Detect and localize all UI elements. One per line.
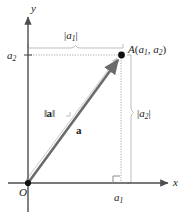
norm-guide-arrow	[26, 58, 117, 180]
abs-a2-bar-right: |	[148, 107, 150, 119]
norm-label-pointer	[66, 112, 70, 116]
norm-bars-right: ‖	[52, 107, 55, 119]
vector-a-arrow	[28, 60, 118, 183]
vector-diagram-svg	[0, 0, 189, 218]
abs-a1-label: |a1|	[64, 30, 78, 43]
point-a-dot	[118, 52, 125, 59]
vector-a-label: a	[76, 125, 82, 136]
brace-abs-a2	[127, 55, 134, 183]
abs-a1-bar-right: |	[75, 29, 77, 41]
point-a-close-paren: )	[162, 43, 166, 55]
y-tick-subscript: 2	[13, 54, 17, 63]
vector-figure: y x O a2 a1 A(a1, a2) |a1| |a2| ‖a‖ a	[0, 0, 189, 218]
vector-a-symbol: a	[76, 124, 82, 136]
brace-abs-a1	[28, 44, 123, 48]
abs-a2-label: |a2|	[137, 108, 151, 121]
x-tick-label-a1: a1	[114, 192, 123, 205]
norm-a-label: ‖a‖	[44, 108, 55, 119]
point-a-name: A	[128, 43, 135, 55]
y-axis-label: y	[31, 3, 36, 14]
right-angle-marker	[113, 176, 120, 183]
y-tick-label-a2: a2	[7, 50, 16, 63]
origin-label: O	[19, 187, 27, 198]
x-tick-subscript: 1	[120, 196, 124, 205]
x-axis-label: x	[173, 177, 178, 188]
point-a-label: A(a1, a2)	[128, 44, 166, 57]
